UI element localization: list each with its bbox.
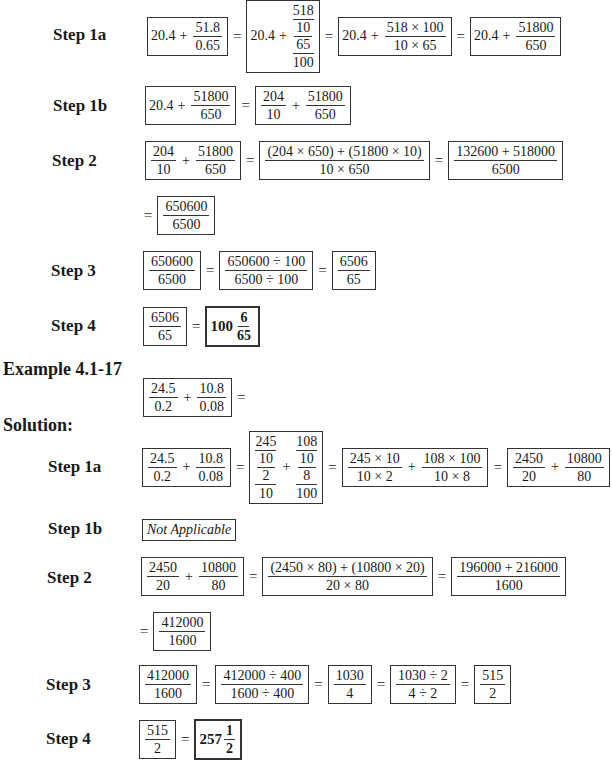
equals: =: [249, 568, 257, 585]
numerator: 51800: [196, 143, 235, 161]
expr-box: 4120001600: [139, 665, 197, 704]
fraction: 51800650: [196, 143, 235, 178]
equals: =: [314, 676, 322, 693]
plus: +: [503, 28, 511, 44]
denominator: 650: [203, 161, 228, 178]
equals: =: [438, 568, 446, 585]
step-1a-expression: 20.4+ 51.80.65 = 20.4+ 518 1065 100 = 20…: [145, 2, 563, 70]
fraction: (2450 × 80) + (10800 × 20)20 × 80: [268, 559, 426, 594]
expr-box: 1030 ÷ 24 ÷ 2: [390, 665, 456, 704]
fraction: 518 × 10010 × 65: [385, 19, 446, 54]
expr-box: 20.4+ 518 1065 100: [246, 0, 319, 73]
numerator: 51800: [516, 19, 555, 37]
fraction: 20410: [151, 143, 176, 178]
expr-box: 245020 + 1080080: [141, 557, 244, 596]
inner-bottom: 65: [294, 37, 312, 53]
numerator: 518: [293, 2, 314, 19]
fraction: 196000 + 2160001600: [457, 559, 560, 594]
denominator: 10 × 8: [432, 468, 472, 485]
inner-top: 10: [294, 20, 312, 37]
equals: =: [377, 676, 385, 693]
denominator: 0.08: [196, 468, 225, 485]
fraction: 650665: [149, 309, 181, 344]
complex-middle: 102: [255, 450, 276, 485]
fraction: 24.50.2: [149, 380, 178, 415]
denominator: 4 ÷ 2: [407, 685, 440, 702]
answer-whole: 100: [210, 318, 233, 335]
denominator: 65: [235, 327, 253, 344]
denominator: 1600: [152, 685, 184, 702]
denominator: 0.65: [193, 37, 222, 54]
denominator: 6500: [490, 161, 522, 178]
step-4-label: Step 4: [51, 316, 96, 336]
fraction: 108 × 10010 × 8: [422, 450, 483, 485]
denominator: 6500: [156, 271, 188, 288]
numerator: 650600: [163, 198, 209, 216]
plus: +: [292, 98, 300, 114]
denominator: 20 × 80: [324, 577, 371, 594]
numerator: 6506: [149, 309, 181, 327]
expr-box: 20410 + 51800650: [145, 141, 241, 180]
denominator: 100: [293, 54, 314, 71]
denominator: 650: [198, 106, 223, 123]
denominator: 100: [296, 485, 317, 502]
denominator: 65: [345, 271, 363, 288]
plus: +: [183, 459, 191, 475]
step-4-expression: 650665 = 100 665: [141, 306, 262, 347]
step-1a-label: Step 1a: [53, 25, 106, 45]
equals: =: [206, 262, 214, 279]
denominator: 6500 ÷ 100: [232, 271, 300, 288]
expr-box: 650665: [332, 251, 376, 290]
denominator: 10: [259, 485, 273, 502]
numerator: 412000: [145, 667, 191, 685]
fraction: 650600 ÷ 1006500 ÷ 100: [225, 253, 307, 288]
fraction: 20410: [261, 88, 286, 123]
step-1a-expression: 24.50.2 + 10.80.08 = 245 102 10 + 108 10…: [140, 432, 612, 502]
fraction: 24.50.2: [148, 450, 177, 485]
denominator: 10 × 65: [392, 37, 439, 54]
expr-box: 20.4+ 51800650: [470, 17, 561, 56]
equals: =: [192, 318, 200, 335]
numerator: 51800: [191, 88, 230, 106]
equals: =: [328, 459, 336, 476]
solution-label: Solution:: [3, 415, 73, 436]
fraction: 10.80.08: [196, 450, 225, 485]
expr-box: 245 × 1010 × 2 + 108 × 10010 × 8: [342, 448, 489, 487]
equals: =: [246, 152, 254, 169]
numerator: 51.8: [193, 19, 222, 37]
expr-box: 650665: [143, 307, 187, 346]
step-2-expression: 245020 + 1080080 = (2450 × 80) + (10800 …: [139, 557, 568, 596]
complex-fraction: 245 102 10: [255, 433, 276, 502]
equals: =: [318, 262, 326, 279]
denominator: 65: [156, 327, 174, 344]
step-1b-expression: Not Applicable: [140, 519, 238, 541]
numerator: 2450: [513, 450, 545, 468]
complex-fraction: 108 108 100: [296, 433, 317, 502]
expr-box: 5152: [139, 720, 176, 759]
denominator: 1600: [493, 577, 525, 594]
numerator: 6506: [338, 253, 370, 271]
equals: =: [236, 459, 244, 476]
numerator: 650600: [149, 253, 195, 271]
step-2-expression: 20410 + 51800650 = (204 × 650) + (51800 …: [143, 141, 565, 180]
fraction: 1080080: [565, 450, 604, 485]
step-1b-expression: 20.4+ 51800650 = 20410 + 51800650: [143, 86, 353, 125]
numerator: 1: [224, 722, 235, 740]
equals: =: [237, 389, 245, 406]
expr-box: (2450 × 80) + (10800 × 20)20 × 80: [262, 557, 432, 596]
numerator: 412000 ÷ 400: [221, 667, 303, 685]
denominator: 1600: [166, 632, 198, 649]
numerator: 132600 + 518000: [454, 143, 557, 161]
numerator: 412000: [159, 614, 205, 632]
numerator: 24.5: [148, 450, 177, 468]
plus: +: [408, 459, 416, 475]
numerator: 196000 + 216000: [457, 559, 560, 577]
example-title: Example 4.1-17: [3, 359, 122, 380]
plus: +: [371, 28, 379, 44]
equals: =: [233, 28, 241, 45]
step-2-label: Step 2: [52, 151, 97, 171]
plus: +: [178, 98, 186, 114]
complex-fraction: 518 1065 100: [293, 2, 314, 71]
expr-box: 20410 + 51800650: [255, 86, 351, 125]
inner-bottom: 2: [260, 468, 271, 484]
